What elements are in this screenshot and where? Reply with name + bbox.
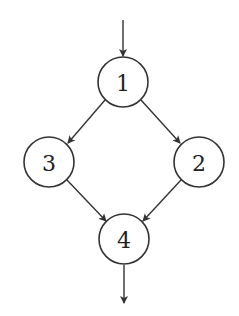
node-4-label: 4 — [117, 228, 131, 253]
node-1-label: 1 — [116, 71, 130, 96]
node-3: 3 — [24, 137, 74, 187]
edge-2-to-4 — [143, 180, 181, 221]
edge-3-to-4 — [67, 180, 106, 221]
node-3-label: 3 — [42, 151, 56, 176]
node-2: 2 — [174, 137, 224, 187]
control-flow-graph: 1 2 3 4 — [0, 0, 239, 316]
node-2-label: 2 — [192, 151, 206, 176]
edge-1-to-2 — [141, 100, 180, 143]
node-1: 1 — [98, 57, 148, 107]
edge-1-to-3 — [68, 100, 105, 143]
node-4: 4 — [99, 214, 149, 264]
